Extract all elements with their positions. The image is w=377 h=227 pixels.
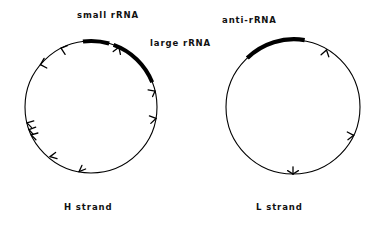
caption-l-strand: L strand [256,203,303,212]
h-strand-small-rrna-arc [83,41,109,44]
l-strand-circle [226,40,360,174]
label-large-rrna: large rRNA [150,39,211,48]
diagram-canvas [0,0,377,227]
l-strand-trna-ticks [288,50,354,174]
label-anti-rrna: anti-rRNA [222,16,277,25]
l-strand-anti-rrna-arc [247,39,304,58]
panel-l-strand [226,39,360,174]
label-small-rrna: small rRNA [77,11,139,20]
genome-map-figure: small rRNA large rRNA anti-rRNA H strand… [0,0,377,227]
caption-h-strand: H strand [64,203,112,212]
panel-h-strand [25,41,157,173]
h-strand-trna-ticks [27,46,156,172]
